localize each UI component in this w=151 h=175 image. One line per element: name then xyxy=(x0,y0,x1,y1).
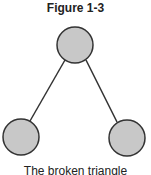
broken-triangle-diagram xyxy=(0,0,151,175)
node-top xyxy=(57,27,93,63)
node-left xyxy=(3,119,39,155)
figure-caption: The broken triangle xyxy=(0,164,151,175)
edge-top-left xyxy=(30,60,65,121)
node-right xyxy=(109,120,145,156)
edge-top-right xyxy=(86,60,117,122)
